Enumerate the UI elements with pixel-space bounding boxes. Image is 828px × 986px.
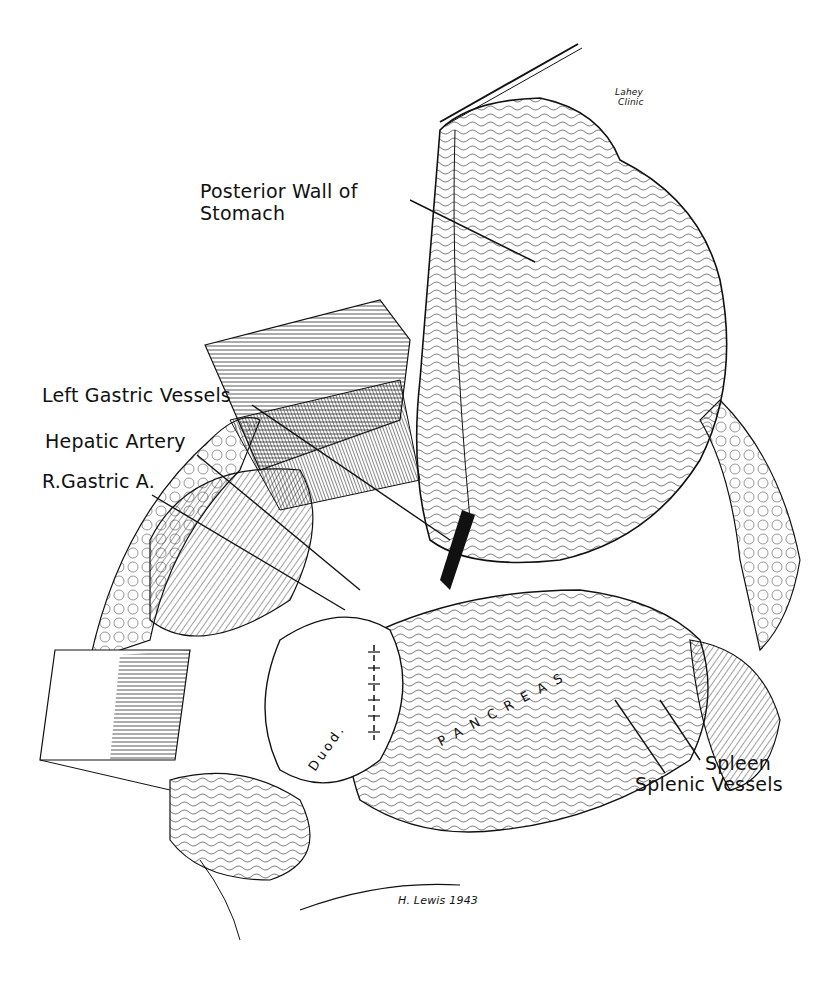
credit-clinic: Clinic — [618, 98, 644, 107]
label-posterior-wall: Posterior Wall of — [200, 180, 358, 202]
bowel-loop — [170, 773, 310, 880]
label-splenic-vessels: Splenic Vessels — [635, 773, 783, 795]
credit-lahey: Lahey — [615, 88, 643, 97]
stomach — [417, 98, 727, 563]
label-left-gastric-vessels: Left Gastric Vessels — [42, 384, 231, 406]
artist-signature: H. Lewis 1943 — [398, 896, 478, 905]
label-stomach: Stomach — [200, 202, 285, 224]
label-hepatic-artery: Hepatic Artery — [45, 430, 186, 452]
label-r-gastric-a: R.Gastric A. — [42, 470, 155, 492]
abdominal-wall-right — [700, 400, 800, 650]
label-spleen: Spleen — [705, 752, 771, 774]
surgical-illustration — [0, 0, 828, 986]
pancreas — [349, 590, 708, 832]
